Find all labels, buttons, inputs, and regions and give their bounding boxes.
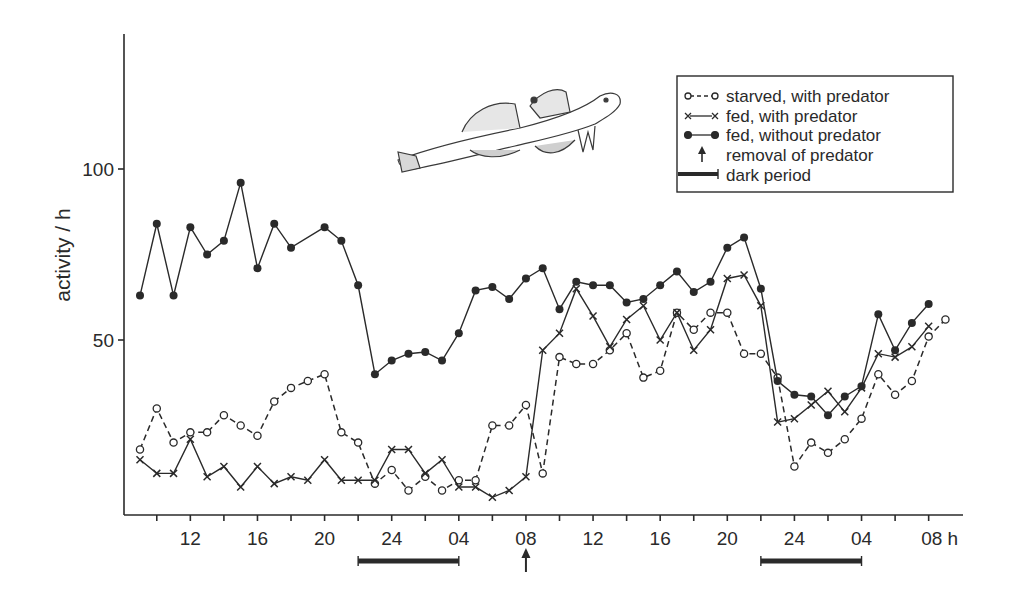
data-point	[170, 439, 177, 446]
data-point	[858, 415, 865, 422]
x-tick-label: 08 h	[921, 528, 958, 549]
data-point	[338, 429, 345, 436]
data-point	[505, 295, 513, 303]
data-point	[807, 392, 815, 400]
data-point	[740, 350, 747, 357]
data-point	[220, 412, 227, 419]
data-point	[925, 323, 932, 330]
data-point	[791, 463, 798, 470]
data-point	[841, 436, 848, 443]
data-point	[573, 360, 580, 367]
data-point	[707, 326, 714, 333]
data-point	[824, 449, 831, 456]
data-point	[187, 436, 194, 443]
legend-label: fed, with predator	[726, 107, 858, 126]
data-point	[153, 405, 160, 412]
data-point	[539, 470, 546, 477]
data-point	[489, 494, 496, 501]
data-point	[254, 463, 261, 470]
data-point	[137, 456, 144, 463]
legend-label: fed, without predator	[726, 126, 881, 145]
data-point	[892, 391, 899, 398]
data-point	[690, 288, 698, 296]
data-point	[623, 316, 630, 323]
data-point	[841, 408, 848, 415]
data-point	[304, 377, 311, 384]
data-point	[723, 244, 731, 252]
data-point	[187, 429, 194, 436]
data-point	[287, 244, 295, 252]
data-point	[287, 384, 294, 391]
x-tick-label: 12	[180, 528, 201, 549]
data-point	[657, 337, 664, 344]
data-point	[455, 329, 463, 337]
legend-label: starved, with predator	[726, 87, 890, 106]
data-point	[506, 487, 513, 494]
data-point	[337, 237, 345, 245]
x-tick-label: 20	[314, 528, 335, 549]
data-point	[237, 179, 245, 187]
data-point	[908, 319, 916, 327]
data-point	[439, 456, 446, 463]
data-point	[707, 309, 714, 316]
data-point	[757, 285, 765, 293]
data-point	[371, 370, 379, 378]
x-ticks: 121620240408121620240408 h	[157, 515, 958, 549]
x-tick-label: 16	[650, 528, 671, 549]
y-ticks: 50100	[82, 159, 124, 351]
data-point	[253, 264, 261, 272]
data-point	[790, 391, 798, 399]
data-point	[623, 298, 631, 306]
data-point	[925, 333, 932, 340]
annotations	[358, 548, 861, 572]
data-point	[640, 302, 647, 309]
legend: starved, with predator fed, with predato…	[677, 76, 953, 192]
data-point	[874, 310, 882, 318]
data-point	[136, 446, 143, 453]
dark-period-bar	[761, 556, 862, 566]
data-point	[556, 330, 563, 337]
x-tick-label: 24	[784, 528, 806, 549]
data-point	[657, 367, 664, 374]
data-point	[204, 429, 211, 436]
data-point	[204, 473, 211, 480]
data-point	[237, 484, 244, 491]
data-point	[472, 286, 480, 294]
series-fed-with-predator	[137, 272, 933, 501]
data-point	[438, 487, 445, 494]
activity-chart: 50100 121620240408121620240408 h activit…	[0, 0, 1013, 604]
data-point	[489, 422, 496, 429]
data-point	[757, 350, 764, 357]
data-point	[640, 374, 647, 381]
data-point	[220, 463, 227, 470]
x-tick-label: 08	[515, 528, 536, 549]
data-point	[321, 371, 328, 378]
x-tick-label: 24	[381, 528, 403, 549]
y-tick-label: 100	[82, 159, 114, 180]
data-point	[271, 398, 278, 405]
data-point	[321, 223, 329, 231]
data-point	[522, 401, 529, 408]
data-point	[170, 292, 178, 300]
data-point	[740, 233, 748, 241]
data-point	[925, 300, 933, 308]
data-point	[404, 350, 412, 358]
y-tick-label: 50	[93, 330, 114, 351]
data-point	[707, 278, 715, 286]
data-point	[220, 237, 228, 245]
data-point	[824, 411, 832, 419]
legend-label: removal of predator	[726, 146, 874, 165]
data-point	[908, 343, 915, 350]
data-point	[623, 330, 630, 337]
data-point	[472, 477, 479, 484]
data-point	[506, 422, 513, 429]
data-point	[237, 422, 244, 429]
x-tick-label: 16	[247, 528, 268, 549]
data-point	[388, 357, 396, 365]
data-point	[388, 466, 395, 473]
y-axis-title: activity / h	[51, 208, 74, 301]
data-point	[488, 283, 496, 291]
data-point	[589, 281, 597, 289]
data-point	[891, 346, 899, 354]
data-point	[690, 326, 697, 333]
